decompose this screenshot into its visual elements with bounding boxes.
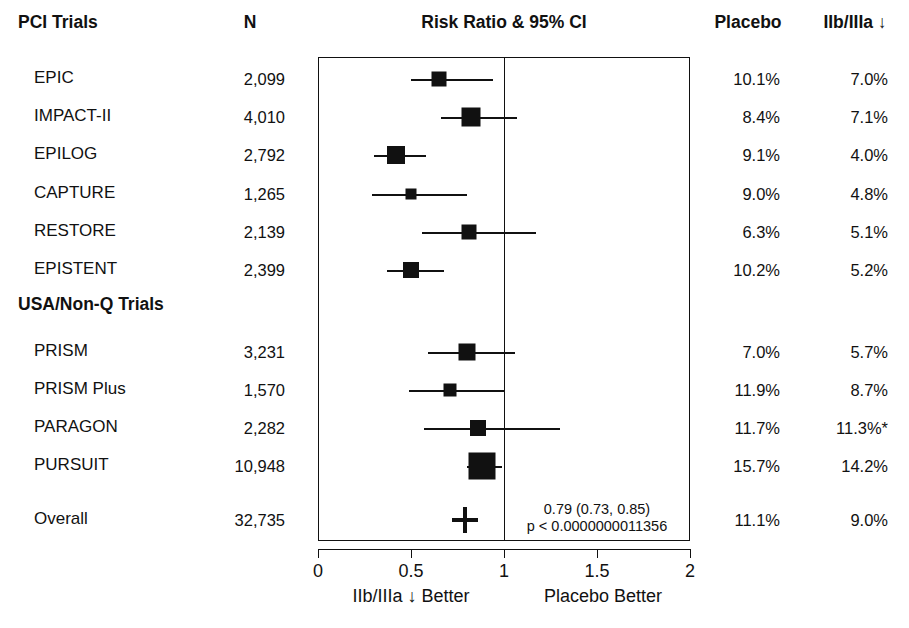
trial-n-prism-plus: 1,570 [150,380,285,400]
x-axis-tick-2 [690,549,691,558]
point-estimate-prism-plus [444,384,457,397]
treatment-rate-impact-ii: 7.1% [795,107,888,127]
placebo-rate-epistent: 10.2% [690,260,780,280]
trial-label-paragon: PARAGON [34,417,118,437]
treatment-rate-pursuit: 14.2% [795,456,888,476]
placebo-rate-paragon: 11.7% [690,418,780,438]
confidence-interval-restore [422,232,535,234]
overall-summary-vertical-bar [463,507,467,533]
trial-label-prism-plus: PRISM Plus [34,379,126,399]
point-estimate-epilog [387,146,405,164]
placebo-rate-restore: 6.3% [690,222,780,242]
trial-n-pursuit: 10,948 [150,456,285,476]
x-axis-label-1: 1 [499,561,509,582]
trial-n-prism: 3,231 [150,342,285,362]
point-estimate-impact-ii [461,108,480,127]
axis-caption-placebo-better: Placebo Better [544,586,662,607]
overall-summary-annotation: 0.79 (0.73, 0.85)p < 0.0000000011356 [527,501,667,535]
axis-caption-treatment-better: IIb/IIIa ↓ Better [352,586,469,607]
point-estimate-paragon [470,420,486,436]
treatment-rate-epic: 7.0% [795,69,888,89]
column-header-placebo: Placebo [700,12,796,32]
trial-label-restore: RESTORE [34,221,116,241]
treatment-rate-restore: 5.1% [795,222,888,242]
point-estimate-pursuit [468,453,495,480]
placebo-rate-impact-ii: 8.4% [690,107,780,127]
group-header-usa-non-q: USA/Non-Q Trials [18,294,164,314]
placebo-rate-epic: 10.1% [690,69,780,89]
x-axis-label-1-5: 1.5 [584,561,609,582]
x-axis-label-0-5: 0.5 [398,561,423,582]
trial-n-capture: 1,265 [150,184,285,204]
column-header-plot-title: Risk Ratio & 95% CI [318,12,690,32]
treatment-rate-epistent: 5.2% [795,260,888,280]
trial-n-epic: 2,099 [150,69,285,89]
placebo-rate-overall: 11.1% [690,510,780,530]
placebo-rate-prism: 7.0% [690,342,780,362]
x-axis-tick-0-5 [411,549,412,558]
trial-label-epic: EPIC [34,68,74,88]
column-header-treatment: IIb/IIIa ↓ [805,12,905,32]
trial-label-epistent: EPISTENT [34,259,117,279]
column-header-trials: PCI Trials [18,12,98,32]
x-axis-tick-1-5 [597,549,598,558]
treatment-rate-overall: 9.0% [795,510,888,530]
confidence-interval-paragon [424,428,560,430]
x-axis-tick-1 [504,549,505,558]
point-estimate-epistent [403,262,419,278]
trial-label-capture: CAPTURE [34,183,115,203]
trial-label-impact-ii: IMPACT-II [34,106,111,126]
null-effect-line [504,57,505,541]
x-axis-label-2: 2 [685,561,695,582]
trial-n-epistent: 2,399 [150,260,285,280]
confidence-interval-capture [372,194,467,196]
trial-n-impact-ii: 4,010 [150,107,285,127]
trial-n-overall: 32,735 [150,510,285,530]
placebo-rate-prism-plus: 11.9% [690,380,780,400]
treatment-rate-prism-plus: 8.7% [795,380,888,400]
overall-estimate-text: 0.79 (0.73, 0.85) [527,501,667,518]
treatment-rate-prism: 5.7% [795,342,888,362]
column-header-n: N [215,12,285,32]
forest-plot-figure: PCI Trials N Risk Ratio & 95% CI Placebo… [0,0,909,628]
overall-pvalue-text: p < 0.0000000011356 [527,518,667,535]
point-estimate-capture [406,189,417,200]
placebo-rate-pursuit: 15.7% [690,456,780,476]
confidence-interval-epic [411,79,493,81]
point-estimate-prism [458,344,475,361]
confidence-interval-prism-plus [409,390,504,392]
trial-label-epilog: EPILOG [34,144,97,164]
trial-label-prism: PRISM [34,341,88,361]
trial-n-paragon: 2,282 [150,418,285,438]
x-axis-label-0: 0 [313,561,323,582]
trial-n-restore: 2,139 [150,222,285,242]
point-estimate-restore [461,225,476,240]
x-axis-tick-0 [318,549,319,558]
trial-label-overall: Overall [34,509,88,529]
placebo-rate-capture: 9.0% [690,184,780,204]
point-estimate-epic [431,72,446,87]
trial-label-pursuit: PURSUIT [34,455,109,475]
trial-n-epilog: 2,792 [150,145,285,165]
treatment-rate-capture: 4.8% [795,184,888,204]
treatment-rate-epilog: 4.0% [795,145,888,165]
placebo-rate-epilog: 9.1% [690,145,780,165]
treatment-rate-paragon: 11.3%* [795,418,888,438]
